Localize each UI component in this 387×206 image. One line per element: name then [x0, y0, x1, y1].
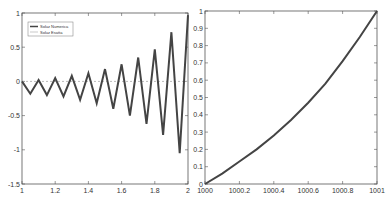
legend: Soluz NumericaSoluz Esatta	[28, 22, 73, 36]
x-tick-label: 1.6	[117, 187, 127, 194]
y-tick-label: 0.7	[193, 59, 203, 66]
x-tick-label: 1000	[197, 187, 213, 194]
figure: 11.21.41.61.82-1.5-1-0.500.51Soluz Numer…	[0, 0, 387, 206]
plot-area	[22, 13, 188, 184]
y-tick-label: 0.9	[193, 25, 203, 32]
y-tick-label: 0.4	[193, 111, 203, 118]
y-tick-label: 0	[199, 181, 203, 188]
y-tick-label: 0.1	[193, 163, 203, 170]
right-axes: 10001000.21000.41000.61000.8100100.10.20…	[193, 8, 385, 195]
left-axes: 11.21.41.61.82-1.5-1-0.500.51Soluz Numer…	[8, 10, 190, 195]
y-tick-label: 0	[16, 78, 20, 85]
x-tick-label: 1.2	[50, 187, 60, 194]
legend-entry: Soluz Numerica	[40, 24, 69, 29]
y-tick-label: -0.5	[8, 112, 20, 119]
y-tick-label: -1	[14, 146, 20, 153]
x-tick-label: 2	[186, 187, 190, 194]
y-tick-label: 0.2	[193, 146, 203, 153]
x-tick-label: 1.8	[150, 187, 160, 194]
x-tick-label: 1000.2	[229, 187, 251, 194]
y-tick-label: 0.5	[193, 94, 203, 101]
x-tick-label: 1000.8	[332, 187, 354, 194]
x-tick-label: 1000.6	[297, 187, 319, 194]
x-tick-label: 1001	[369, 187, 385, 194]
y-tick-label: 0.3	[193, 129, 203, 136]
legend-entry: Soluz Esatta	[40, 30, 63, 35]
x-tick-label: 1000.4	[263, 187, 285, 194]
x-tick-label: 1.4	[84, 187, 94, 194]
y-tick-label: 0.8	[193, 42, 203, 49]
plot-area	[205, 11, 377, 184]
y-tick-label: 0.5	[10, 44, 20, 51]
y-tick-label: 1	[199, 8, 203, 15]
y-tick-label: 1	[16, 10, 20, 17]
y-tick-label: -1.5	[8, 181, 20, 188]
x-tick-label: 1	[20, 187, 24, 194]
y-tick-label: 0.6	[193, 77, 203, 84]
